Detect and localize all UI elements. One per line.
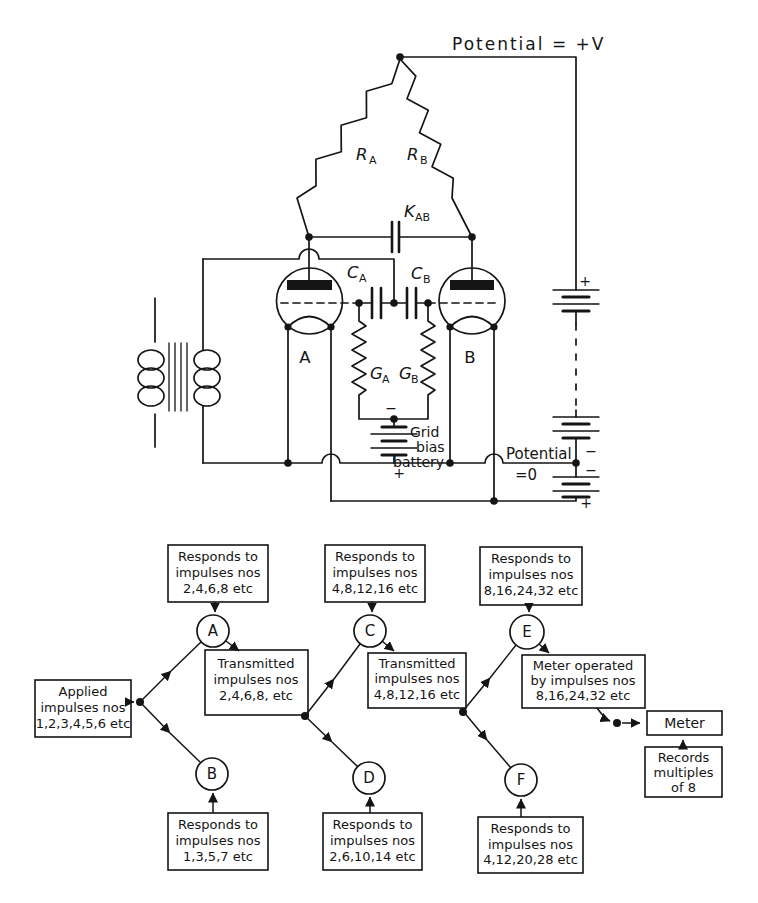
- return-bus-dot: [490, 497, 498, 505]
- resistor-ra-label: R: [356, 145, 367, 164]
- ca-subscript: A: [359, 272, 367, 285]
- arrow-c-to-transmitted: [382, 641, 394, 651]
- stage-letter-f: F: [517, 771, 526, 789]
- supply-potential-label: Potential = +V: [452, 34, 605, 54]
- resistor-ra-zigzag: [297, 59, 400, 237]
- resistor-ra-subscript: A: [369, 154, 377, 167]
- bias-minus-sign: −: [385, 400, 397, 416]
- box-responds-c-line3: 4,8,12,16 etc: [332, 581, 418, 596]
- box-responds-a: Responds to impulses nos 2,4,6,8 etc: [168, 545, 268, 602]
- junction-dot-meter: [613, 719, 621, 727]
- gb-subscript: B: [411, 373, 419, 386]
- secondary-coil-loop: [194, 368, 220, 388]
- stage-letter-d: D: [363, 769, 375, 787]
- trigger-circuit-schematic: Potential = +V R A R B K AB A: [138, 34, 605, 511]
- grid-bias-battery: − + Grid bias battery: [371, 400, 445, 481]
- secondary-coil-loop: [194, 386, 220, 406]
- resistor-rb-subscript: B: [420, 154, 428, 167]
- valve-a-cathode: [288, 317, 331, 328]
- input-transformer: [138, 259, 220, 463]
- zero-potential-label-1: Potential: [506, 445, 572, 463]
- arrow-junction-to-a: [140, 671, 171, 702]
- cb-label: C: [411, 264, 423, 283]
- ht-plus-bottom: +: [580, 495, 592, 511]
- line-junction-to-c: [334, 644, 360, 679]
- arrow-junction-to-b: [140, 702, 170, 733]
- line-junction-to-f: [487, 740, 511, 768]
- arrow-junction-to-f: [463, 711, 487, 740]
- counter-circuit-figure: Potential = +V R A R B K AB A: [0, 0, 758, 903]
- ht-battery: + − − +: [553, 273, 599, 511]
- bus-dot-a: [284, 459, 292, 467]
- box-responds-e-line3: 8,16,24,32 etc: [484, 583, 579, 598]
- figure-page: Potential = +V R A R B K AB A: [0, 0, 758, 903]
- box-applied-line1: Applied: [59, 684, 108, 699]
- zero-potential-label-2: =0: [515, 466, 537, 484]
- grid-bias-label-1: Grid: [410, 424, 439, 440]
- stage-letter-a: A: [208, 622, 219, 640]
- primary-coil-loop: [138, 368, 164, 388]
- box-responds-d: Responds to impulses nos 2,6,10,14 etc: [323, 813, 422, 870]
- box-meter-operated-line1: Meter operated: [533, 658, 634, 673]
- box-responds-e-line1: Responds to: [491, 551, 571, 566]
- primary-coil-loop: [138, 350, 164, 370]
- kab-subscript: AB: [415, 211, 430, 224]
- valve-a-label: A: [299, 348, 311, 367]
- box-responds-e: Responds to impulses nos 8,16,24,32 etc: [480, 547, 582, 605]
- grid-bias-label-3: battery: [393, 454, 444, 470]
- primary-coil-loop: [138, 386, 164, 406]
- box-responds-f-line1: Responds to: [491, 821, 571, 836]
- stage-letter-c: C: [365, 622, 375, 640]
- arrow-e-to-meter-op: [539, 644, 549, 653]
- box-transmitted-cd-line3: 4,8,12,16 etc: [374, 687, 460, 702]
- box-transmitted-cd-line1: Transmitted: [377, 656, 455, 671]
- arrow-junction-to-d: [305, 716, 332, 742]
- ht-minus-lower: −: [585, 462, 597, 478]
- box-meter-operated: Meter operated by impulses nos 8,16,24,3…: [522, 655, 645, 708]
- box-transmitted-cd: Transmitted impulses nos 4,8,12,16 etc: [368, 653, 466, 708]
- box-responds-c-line1: Responds to: [335, 549, 415, 564]
- capacitor-ca: [372, 288, 381, 318]
- box-responds-d-line3: 2,6,10,14 etc: [329, 849, 415, 864]
- box-transmitted-ab-line2: impulses nos: [213, 672, 298, 687]
- ga-label: G: [370, 364, 383, 383]
- ht-supply-wire: [400, 57, 576, 290]
- line-junction-to-a: [171, 642, 201, 671]
- grid-bias-label-2: bias: [416, 439, 445, 455]
- box-responds-c-line2: impulses nos: [332, 565, 417, 580]
- box-transmitted-cd-line2: impulses nos: [374, 671, 459, 686]
- arrow-junction-to-c: [305, 679, 334, 716]
- line-junction-to-b: [170, 733, 200, 762]
- valve-b-label: B: [464, 348, 475, 367]
- box-transmitted-ab-line3: 2,4,6,8, etc: [219, 688, 293, 703]
- gb-label: G: [399, 364, 412, 383]
- valve-b-anode-plate: [450, 280, 494, 290]
- box-applied-line2: impulses nos: [40, 700, 125, 715]
- secondary-coil-loop: [194, 350, 220, 370]
- arrow-junction-to-e: [463, 678, 490, 711]
- return-bus-wire: [331, 497, 576, 501]
- stage-letter-e: E: [522, 623, 531, 641]
- ca-label: C: [347, 263, 359, 282]
- box-records-line3: of 8: [671, 780, 696, 795]
- bias-battery-short-plates: [382, 427, 406, 455]
- box-meter-label: Meter: [664, 715, 705, 731]
- bus-dot-b: [446, 459, 454, 467]
- ga-subscript: A: [382, 373, 390, 386]
- box-responds-a-line3: 2,4,6,8 etc: [183, 581, 253, 596]
- valve-b-cathode: [450, 317, 494, 328]
- box-responds-b-line2: impulses nos: [175, 833, 260, 848]
- coupling-capacitor-kab: [392, 222, 399, 252]
- transformer-core: [169, 343, 187, 411]
- impulse-flow-diagram: Responds to impulses nos 2,4,6,8 etc Res…: [35, 545, 722, 873]
- box-applied-line3: 1,2,3,4,5,6 etc: [36, 716, 131, 731]
- capacitor-cb: [407, 288, 416, 318]
- box-records: Records multiples of 8: [645, 747, 722, 797]
- box-responds-d-line1: Responds to: [333, 817, 413, 832]
- box-meter-operated-line3: 8,16,24,32 etc: [536, 688, 631, 703]
- box-records-line2: multiples: [654, 765, 714, 780]
- box-transmitted-ab: Transmitted impulses nos 2,4,6,8, etc: [205, 650, 308, 715]
- ht-plus-top: +: [579, 273, 591, 289]
- box-records-line1: Records: [658, 750, 710, 765]
- stage-letter-b: B: [207, 765, 217, 783]
